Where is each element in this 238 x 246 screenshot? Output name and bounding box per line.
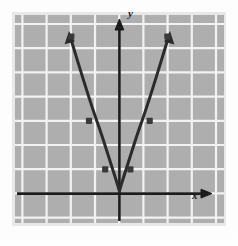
x-axis-label: x	[192, 190, 198, 201]
data-point-marker	[147, 118, 153, 124]
x-axis-arrow-icon	[201, 189, 212, 198]
data-point-marker	[86, 118, 92, 124]
data-point-marker	[68, 33, 74, 39]
data-point-marker	[102, 166, 108, 172]
y-axis-label: y	[128, 8, 133, 19]
graph-figure: x y	[0, 0, 238, 246]
data-point-marker	[127, 166, 133, 172]
data-point-marker	[164, 33, 170, 39]
